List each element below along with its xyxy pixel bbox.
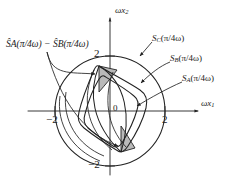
label-difference-text: ŜA(π/4ω) − ŜB(π/4ω) <box>6 39 89 49</box>
label-difference: ŜA(π/4ω) − ŜB(π/4ω) <box>6 40 89 50</box>
x-axis-label-text: ωx <box>201 98 211 108</box>
label-set-a-arg: (π/4ω) <box>190 73 213 83</box>
label-set-b-arg: (π/4ω) <box>178 53 201 63</box>
label-set-b: SB(π/4ω) <box>170 54 202 64</box>
label-set-c-arg: (π/4ω) <box>161 33 184 43</box>
x-axis-label: ωx1 <box>201 99 215 109</box>
label-set-a: SA(π/4ω) <box>182 74 214 84</box>
y-tick-label-neg2: −2 <box>88 159 100 170</box>
y-tick-label-pos2: 2 <box>94 48 100 59</box>
y-axis-label: ωx2 <box>115 6 129 16</box>
y-axis-label-text: ωx <box>115 5 125 15</box>
leader-set-c <box>140 42 152 56</box>
origin-label: 0 <box>113 104 118 113</box>
y-axis-label-sub: 2 <box>125 8 128 15</box>
x-axis-label-sub: 1 <box>211 101 214 108</box>
leader-difference-upper <box>47 52 95 74</box>
x-tick-label-pos2: 2 <box>162 114 168 125</box>
x-tick-label-neg2: −2 <box>46 114 58 125</box>
reachable-set-figure: ŜA(π/4ω) − ŜB(π/4ω) SC(π/4ω) SB(π/4ω) SA… <box>0 0 237 196</box>
label-set-c: SC(π/4ω) <box>152 34 184 44</box>
